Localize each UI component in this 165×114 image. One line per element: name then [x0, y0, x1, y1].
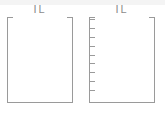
- right-plot-panel[interactable]: IL: [89, 17, 155, 103]
- left-plot-panel[interactable]: IL: [7, 17, 73, 103]
- right-plot-y-axis-ticks: [90, 17, 96, 103]
- left-plot-y-axis: [7, 17, 8, 103]
- right-plot-x-axis: [89, 102, 155, 103]
- y-axis-tick: [90, 28, 95, 29]
- right-plot-area[interactable]: [90, 17, 154, 102]
- y-axis-tick: [90, 46, 95, 47]
- y-axis-tick: [90, 72, 95, 73]
- right-plot-right-axis: [154, 17, 155, 103]
- y-axis-tick: [90, 37, 95, 38]
- right-plot-title: IL: [89, 3, 155, 15]
- y-axis-tick: [90, 55, 95, 56]
- left-plot-right-axis: [72, 17, 73, 103]
- y-axis-tick: [90, 90, 95, 91]
- y-axis-tick: [90, 19, 95, 20]
- left-plot-x-axis: [7, 102, 73, 103]
- left-plot-title: IL: [7, 3, 73, 15]
- y-axis-tick: [90, 81, 95, 82]
- screenshot-canvas: IL IL: [0, 0, 165, 114]
- left-plot-area[interactable]: [8, 17, 72, 102]
- y-axis-tick: [90, 63, 95, 64]
